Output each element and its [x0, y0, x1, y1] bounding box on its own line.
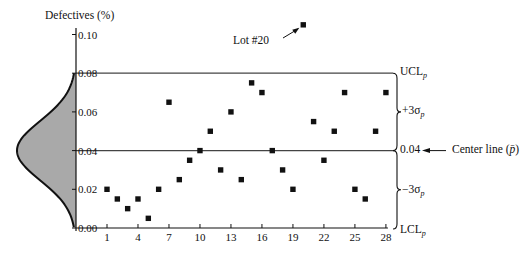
control-chart: 0.000.020.040.060.080.101471013161922252…	[0, 0, 530, 254]
center-line-label: Center line (p̄)	[452, 143, 519, 156]
data-point-lot-20	[301, 22, 306, 27]
data-point-lot-24	[342, 90, 347, 95]
data-point-lot-15	[249, 80, 254, 85]
data-point-lot-25	[352, 187, 357, 192]
x-tick-label: 1	[104, 231, 110, 243]
x-tick-label: 16	[256, 231, 268, 243]
x-tick-label: 19	[287, 231, 299, 243]
y-tick-label: 0.10	[78, 29, 98, 41]
data-point-lot-5	[146, 216, 151, 221]
y-tick-label: 0.00	[78, 222, 98, 234]
center-value-label: 0.04	[400, 143, 420, 155]
data-point-lot-23	[332, 129, 337, 134]
control-limit-lines	[76, 73, 393, 150]
data-point-lot-27	[373, 129, 378, 134]
data-point-lot-13	[228, 109, 233, 114]
data-point-lot-12	[218, 167, 223, 172]
data-points	[104, 22, 388, 221]
data-point-lot-16	[259, 90, 264, 95]
data-point-lot-8	[177, 177, 182, 182]
normal-distribution-curve	[17, 73, 76, 228]
data-point-lot-18	[280, 167, 285, 172]
x-tick-label: 4	[135, 231, 141, 243]
ucl-label: UCLp	[400, 65, 427, 80]
data-point-lot-3	[125, 206, 130, 211]
data-point-lot-10	[197, 148, 202, 153]
data-point-lot-7	[166, 100, 171, 105]
lot20-annotation: Lot #20	[233, 34, 269, 46]
axes: 0.000.020.040.060.080.101471013161922252…	[72, 28, 392, 243]
x-tick-label: 28	[380, 231, 392, 243]
minus-3sigma-label: −3σp	[402, 183, 424, 198]
data-point-lot-4	[135, 196, 140, 201]
data-point-lot-19	[290, 187, 295, 192]
plus-3sigma-label: +3σp	[402, 104, 424, 119]
data-point-lot-9	[187, 158, 192, 163]
data-point-lot-1	[104, 187, 109, 192]
y-tick-label: 0.06	[78, 106, 98, 118]
data-point-lot-14	[239, 177, 244, 182]
y-axis-title: Defectives (%)	[45, 9, 114, 22]
x-tick-label: 10	[194, 231, 206, 243]
center-line-arrow-head	[422, 148, 430, 153]
data-point-lot-21	[311, 119, 316, 124]
y-tick-label: 0.04	[78, 145, 98, 157]
x-tick-label: 13	[225, 231, 237, 243]
data-point-lot-17	[270, 148, 275, 153]
x-tick-label: 22	[318, 231, 329, 243]
data-point-lot-2	[115, 196, 120, 201]
data-point-lot-28	[383, 90, 388, 95]
x-tick-label: 25	[349, 231, 361, 243]
data-point-lot-11	[208, 129, 213, 134]
distribution-fill	[17, 73, 76, 228]
lot20-arrow-head	[292, 28, 299, 34]
p-chart-svg: 0.000.020.040.060.080.101471013161922252…	[0, 0, 530, 254]
x-tick-label: 7	[166, 231, 172, 243]
lcl-label: LCLp	[400, 223, 426, 238]
data-point-lot-22	[321, 158, 326, 163]
sigma-brace	[393, 151, 401, 229]
data-point-lot-26	[363, 196, 368, 201]
y-tick-label: 0.02	[78, 183, 97, 195]
y-tick-label: 0.08	[78, 67, 98, 79]
data-point-lot-6	[156, 187, 161, 192]
sigma-brace	[393, 73, 401, 150]
